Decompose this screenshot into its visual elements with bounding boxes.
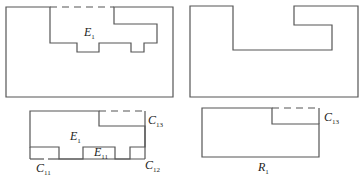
diagram-canvas: E1 E1 E11 C11 C12 C13 C13 R1 [0, 0, 361, 181]
label-e1: E1 [69, 129, 81, 145]
hatched-region [30, 111, 145, 159]
hatched-region [202, 108, 319, 157]
label-r1: R1 [257, 160, 269, 176]
hatched-region [190, 6, 358, 97]
label-c13: C13 [324, 110, 340, 126]
figure-top-left: E1 [6, 7, 173, 97]
figure-bottom-left: E1 E11 C11 C12 C13 [30, 111, 164, 177]
label-c11: C11 [36, 161, 51, 177]
hatched-region [6, 7, 173, 97]
label-c13: C13 [148, 113, 164, 129]
label-e1: E1 [83, 25, 95, 41]
label-c12: C12 [145, 158, 161, 174]
figure-bottom-right: C13 R1 [202, 108, 340, 176]
figure-top-right [190, 6, 358, 97]
